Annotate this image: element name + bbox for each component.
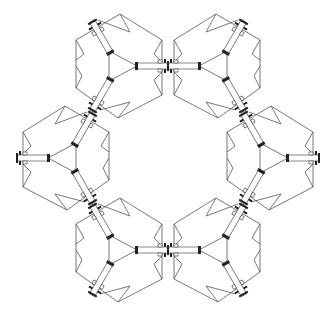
diagram-canvas	[0, 0, 336, 321]
module-right	[227, 106, 320, 210]
module-bottom-right	[167, 198, 260, 302]
modular-ring-drawing	[0, 0, 336, 321]
module-top-right	[167, 14, 260, 118]
module-bottom-left	[76, 198, 169, 302]
module-top-left	[76, 14, 169, 118]
module-left	[16, 106, 109, 210]
